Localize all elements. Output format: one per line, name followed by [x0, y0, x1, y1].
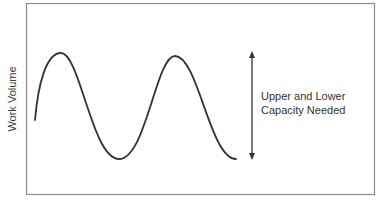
- y-axis-label: Work Volume: [6, 66, 18, 131]
- work-volume-curve: [35, 53, 236, 159]
- arrow-up-icon: [249, 51, 255, 58]
- annotation-line-2: Capacity Needed: [261, 104, 345, 118]
- capacity-range-arrow: [249, 51, 255, 160]
- arrow-down-icon: [249, 153, 255, 160]
- work-volume-diagram: Work Volume Upper and Lower Capacity Nee…: [0, 0, 378, 205]
- capacity-annotation: Upper and Lower Capacity Needed: [261, 90, 345, 117]
- annotation-line-1: Upper and Lower: [261, 90, 345, 104]
